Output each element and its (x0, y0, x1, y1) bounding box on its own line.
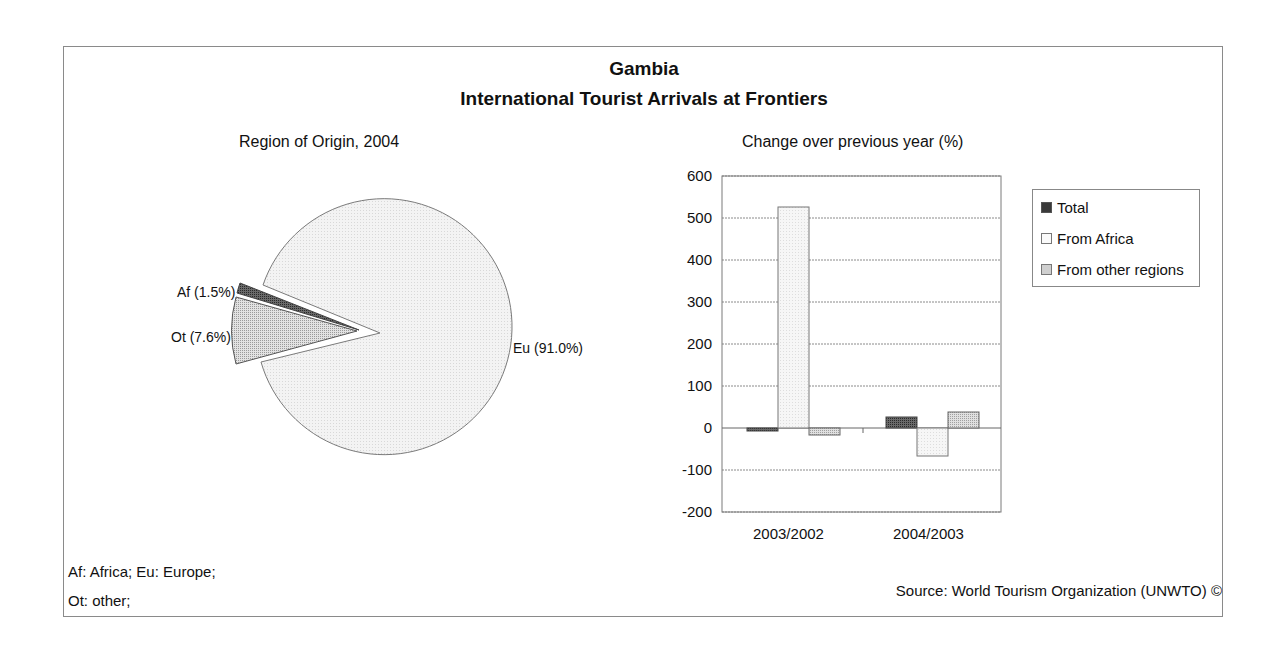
y-tick: 400 (660, 250, 712, 292)
legend-item-other: From other regions (1041, 261, 1184, 278)
y-tick: -100 (660, 460, 712, 502)
footnote-line-1: Af: Africa; Eu: Europe; (68, 563, 216, 580)
bar-other-2003 (809, 428, 840, 435)
legend-label-total: Total (1057, 199, 1089, 216)
y-tick: -200 (660, 502, 712, 544)
legend-swatch-other (1041, 264, 1052, 275)
y-axis-ticks: 600 500 400 300 200 100 0 -100 -200 (660, 166, 712, 544)
y-tick: 600 (660, 166, 712, 208)
bar-africa-2003 (778, 207, 809, 428)
y-tick: 100 (660, 376, 712, 418)
footnote-line-2: Ot: other; (68, 592, 131, 609)
source-note: Source: World Tourism Organization (UNWT… (896, 582, 1222, 599)
legend-swatch-africa (1041, 233, 1052, 244)
legend-label-africa: From Africa (1057, 230, 1134, 247)
bar-africa-2004 (917, 428, 948, 456)
bar-other-2004 (948, 412, 979, 428)
bar-total-2004 (886, 417, 917, 428)
gridlines (722, 176, 1001, 512)
legend-label-other: From other regions (1057, 261, 1184, 278)
x-label-2003-2002: 2003/2002 (753, 525, 824, 542)
y-tick: 0 (660, 418, 712, 460)
x-label-2004-2003: 2004/2003 (893, 525, 964, 542)
legend-item-africa: From Africa (1041, 230, 1134, 247)
y-tick: 300 (660, 292, 712, 334)
legend-item-total: Total (1041, 199, 1089, 216)
legend-swatch-total (1041, 202, 1052, 213)
chart-legend: Total From Africa From other regions (1032, 189, 1200, 287)
bar-total-2003 (747, 428, 778, 431)
y-tick: 200 (660, 334, 712, 376)
y-tick: 500 (660, 208, 712, 250)
